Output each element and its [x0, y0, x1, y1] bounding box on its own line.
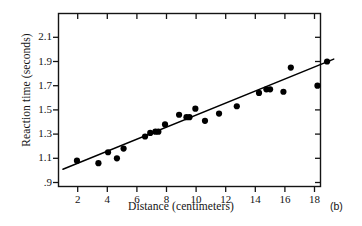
y-tick-label: 2.1: [26, 30, 52, 42]
data-point: [147, 130, 153, 136]
data-point: [155, 129, 161, 135]
data-point: [314, 83, 320, 89]
data-point: [114, 155, 120, 161]
y-tick-label: 1.5: [26, 103, 52, 115]
data-point: [288, 64, 294, 70]
y-tick-label: 1.1: [26, 151, 52, 163]
figure-panel: Distance (centimeters) Reaction time (se…: [0, 0, 362, 226]
x-tick-label: 2: [66, 193, 90, 205]
y-tick-label: 1.7: [26, 79, 52, 91]
x-tick-label: 12: [214, 193, 238, 205]
data-point: [256, 90, 262, 96]
y-tick-label: 1.9: [26, 55, 52, 67]
data-point: [267, 86, 273, 92]
y-tick-label: 1.3: [26, 127, 52, 139]
x-tick-label: 16: [273, 193, 297, 205]
data-point: [142, 133, 148, 139]
data-point: [176, 112, 182, 118]
data-point: [95, 160, 101, 166]
data-point: [74, 158, 80, 164]
data-point: [216, 110, 222, 116]
panel-label: (b): [330, 200, 343, 212]
data-point: [186, 114, 192, 120]
data-point: [162, 121, 168, 127]
data-point: [234, 103, 240, 109]
regression-line: [63, 59, 334, 169]
y-tick-label: .9: [26, 176, 52, 188]
data-point: [324, 58, 330, 64]
data-point: [120, 146, 126, 152]
data-point: [202, 118, 208, 124]
x-tick-label: 14: [243, 193, 267, 205]
x-tick-label: 4: [95, 193, 119, 205]
x-tick-label: 18: [303, 193, 327, 205]
x-tick-label: 10: [184, 193, 208, 205]
x-tick-label: 6: [125, 193, 149, 205]
x-tick-label: 8: [155, 193, 179, 205]
data-point: [105, 149, 111, 155]
data-point: [280, 89, 286, 95]
data-point: [192, 106, 198, 112]
